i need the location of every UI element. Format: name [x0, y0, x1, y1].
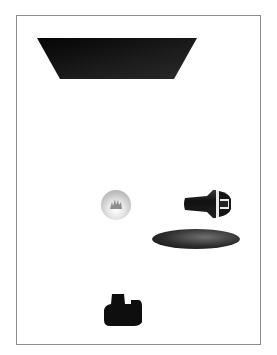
flame-icon	[109, 197, 123, 209]
glass-sphere-icon	[101, 190, 131, 220]
trapezoid-shape	[37, 38, 197, 80]
knob-shape	[183, 189, 239, 219]
disc-shape	[152, 229, 240, 249]
camera-icon	[104, 294, 142, 326]
